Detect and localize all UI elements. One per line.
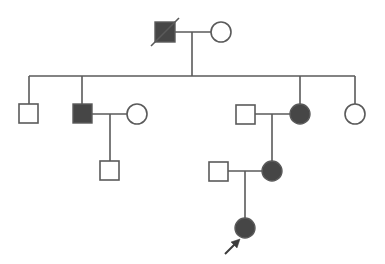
individual-III-1-unaffected-male — [100, 161, 119, 180]
pedigree-chart — [0, 0, 385, 264]
individual-II-2-spouse-unaffected-female — [127, 104, 147, 124]
individual-II-2-affected-male — [73, 104, 92, 123]
proband-arrow-icon — [225, 239, 240, 254]
individual-II-3-affected-female — [290, 104, 310, 124]
pedigree-diagram — [0, 0, 385, 264]
individual-II-4-unaffected-female — [345, 104, 365, 124]
individual-I-2-unaffected-female — [211, 22, 231, 42]
individual-II-3-spouse-unaffected-male — [236, 105, 255, 124]
individual-III-2-spouse-unaffected-male — [209, 162, 228, 181]
individual-II-1-unaffected-male — [19, 104, 38, 123]
individual-IV-1-affected-female-proband — [235, 218, 255, 238]
individual-III-2-affected-female — [262, 161, 282, 181]
